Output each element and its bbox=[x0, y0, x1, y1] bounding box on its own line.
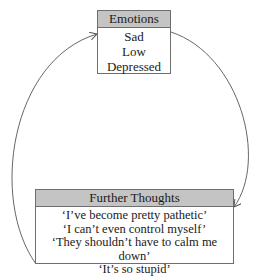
arrow-emotions-to-thoughts bbox=[171, 32, 248, 207]
emotions-list: Sad Low Depressed bbox=[98, 28, 170, 74]
emotion-item: Sad bbox=[98, 29, 170, 44]
thoughts-list: ‘I’ve become pretty pathetic’ ‘I can’t e… bbox=[36, 207, 233, 277]
further-thoughts-box: Further Thoughts ‘I’ve become pretty pat… bbox=[35, 189, 234, 264]
thought-item: ‘I’ve become pretty pathetic’ bbox=[36, 209, 233, 223]
emotion-item: Depressed bbox=[98, 59, 170, 74]
thought-item: ‘They shouldn’t have to calm me down’ bbox=[36, 236, 233, 263]
thought-item: ‘It’s so stupid’ bbox=[36, 263, 233, 277]
emotions-box: Emotions Sad Low Depressed bbox=[97, 10, 171, 74]
further-thoughts-header: Further Thoughts bbox=[36, 190, 233, 207]
thought-item: ‘I can’t even control myself’ bbox=[36, 223, 233, 237]
emotion-item: Low bbox=[98, 44, 170, 59]
emotions-header: Emotions bbox=[98, 11, 170, 28]
